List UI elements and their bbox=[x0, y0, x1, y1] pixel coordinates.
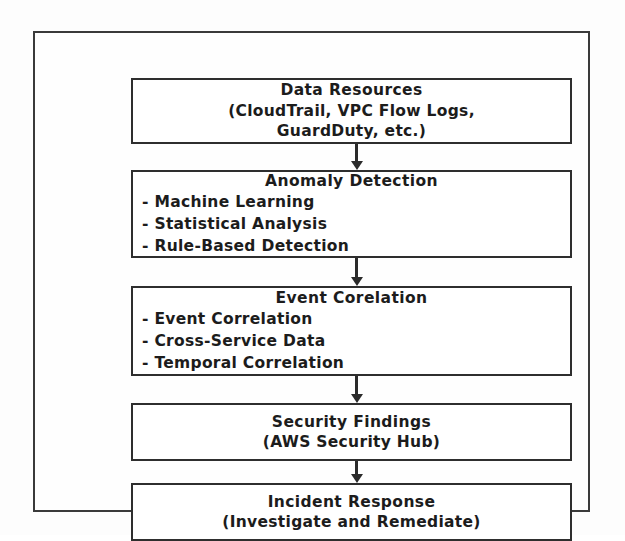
flow-node-incident-response[interactable]: Incident Response (Investigate and Remed… bbox=[131, 483, 572, 541]
flow-node-anomaly-detection[interactable]: Anomaly Detection - Machine Learning - S… bbox=[131, 170, 572, 258]
flow-node-bullet-list: - Event Correlation - Cross-Service Data… bbox=[133, 308, 570, 374]
arrow-shaft bbox=[355, 258, 358, 277]
down-arrow-icon bbox=[353, 144, 360, 170]
flow-node-subtitle-line: (CloudTrail, VPC Flow Logs, bbox=[133, 101, 570, 121]
flow-node-title: Incident Response bbox=[133, 492, 570, 512]
flow-node-bullet-item: - Cross-Service Data bbox=[133, 330, 570, 352]
flow-node-bullet-item: - Temporal Correlation bbox=[133, 352, 570, 374]
flow-node-bullet-item: - Statistical Analysis bbox=[133, 213, 570, 235]
arrow-head bbox=[351, 394, 363, 403]
flow-node-title: Event Corelation bbox=[133, 288, 570, 308]
flow-node-bullet-item: - Machine Learning bbox=[133, 191, 570, 213]
diagram-outer-frame: Data Resources (CloudTrail, VPC Flow Log… bbox=[33, 31, 590, 512]
flow-node-event-corelation[interactable]: Event Corelation - Event Correlation - C… bbox=[131, 286, 572, 376]
arrow-head bbox=[351, 474, 363, 483]
flow-node-data-resources[interactable]: Data Resources (CloudTrail, VPC Flow Log… bbox=[131, 78, 572, 144]
arrow-head bbox=[351, 161, 363, 170]
flow-node-security-findings[interactable]: Security Findings (AWS Security Hub) bbox=[131, 403, 572, 461]
flow-node-title: Data Resources bbox=[133, 80, 570, 100]
flow-node-title: Anomaly Detection bbox=[133, 171, 570, 191]
flow-node-bullet-item: - Rule-Based Detection bbox=[133, 235, 570, 257]
arrow-head bbox=[351, 277, 363, 286]
flow-node-subtitle-line: GuardDuty, etc.) bbox=[133, 121, 570, 141]
down-arrow-icon bbox=[353, 258, 360, 286]
arrow-shaft bbox=[355, 461, 358, 474]
down-arrow-icon bbox=[353, 376, 360, 403]
arrow-shaft bbox=[355, 144, 358, 161]
flow-node-subtitle-line: (AWS Security Hub) bbox=[133, 432, 570, 452]
flow-node-bullet-item: - Event Correlation bbox=[133, 308, 570, 330]
flow-node-subtitle-line: (Investigate and Remediate) bbox=[133, 512, 570, 532]
flow-node-title: Security Findings bbox=[133, 412, 570, 432]
arrow-shaft bbox=[355, 376, 358, 394]
flow-node-bullet-list: - Machine Learning - Statistical Analysi… bbox=[133, 191, 570, 257]
down-arrow-icon bbox=[353, 461, 360, 483]
